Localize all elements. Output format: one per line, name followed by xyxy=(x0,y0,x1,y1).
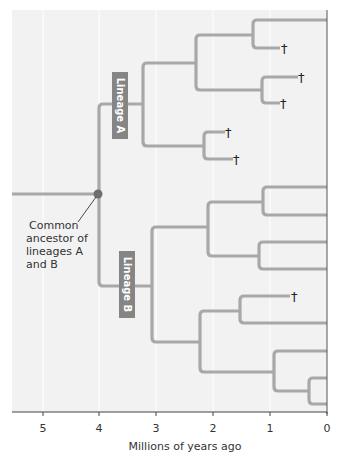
svg-text:Lineage A: Lineage A xyxy=(115,78,126,134)
svg-text:and B: and B xyxy=(26,258,58,271)
dagger-icon: † xyxy=(225,125,232,140)
lineage-a-label: Lineage A xyxy=(112,72,128,139)
x-axis-tick-labels: 5 4 3 2 1 0 xyxy=(40,422,331,435)
phylogenetic-tree-figure: † † † † † † Common ancestor of lineages … xyxy=(0,0,341,462)
svg-text:Lineage B: Lineage B xyxy=(122,257,133,313)
svg-text:lineages A: lineages A xyxy=(26,245,84,258)
tick-label: 0 xyxy=(324,422,331,435)
dagger-icon: † xyxy=(298,70,305,85)
x-axis: 5 4 3 2 1 0 Millions of years ago xyxy=(12,412,331,453)
tick-label: 2 xyxy=(210,422,217,435)
tick-label: 5 xyxy=(40,422,47,435)
lineage-b-label: Lineage B xyxy=(119,251,135,318)
dagger-icon: † xyxy=(281,41,288,56)
common-ancestor-node xyxy=(94,190,103,199)
svg-text:ancestor of: ancestor of xyxy=(26,232,89,245)
tick-label: 1 xyxy=(267,422,274,435)
tick-label: 4 xyxy=(96,422,103,435)
dagger-icon: † xyxy=(291,289,298,304)
tick-label: 3 xyxy=(153,422,160,435)
dagger-icon: † xyxy=(280,96,287,111)
dagger-icon: † xyxy=(233,152,240,167)
svg-text:Common: Common xyxy=(29,219,79,232)
x-axis-label: Millions of years ago xyxy=(129,440,242,453)
